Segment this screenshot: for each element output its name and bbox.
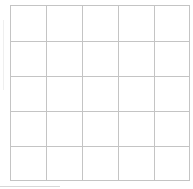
left-edge-line bbox=[3, 20, 4, 90]
footer-divider bbox=[0, 186, 60, 187]
grid-horizontal-line bbox=[11, 111, 189, 112]
grid-horizontal-line bbox=[11, 41, 189, 42]
grid-vertical-line bbox=[82, 6, 83, 180]
grid-vertical-line bbox=[46, 6, 47, 180]
grid-horizontal-line bbox=[11, 146, 189, 147]
grid-vertical-line bbox=[118, 6, 119, 180]
grid-horizontal-line bbox=[11, 76, 189, 77]
grid-vertical-line bbox=[154, 6, 155, 180]
grid bbox=[10, 5, 190, 181]
